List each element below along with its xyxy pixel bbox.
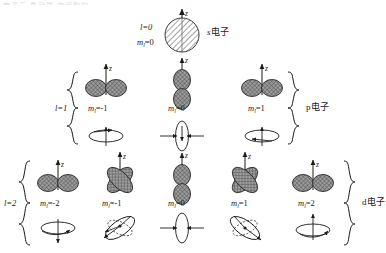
spin-diagram-d-m2 [296,214,330,240]
orbital-shape-d-m2 [293,160,334,192]
spin-diagram-d-m-2 [41,219,75,243]
orbital-shape-d-m-2 [38,160,79,192]
spin-diagram-d-m0 [160,213,204,243]
brace-right-d [344,161,355,245]
orbital-shape-s-m0 [165,9,199,52]
orbital-shape-p-m1 [242,64,283,97]
brace-left-p [67,72,78,144]
orbital-shape-d-m0 [174,153,191,205]
brace-left-d [19,161,30,245]
spin-diagram-d-m-1 [102,212,138,244]
orbital-shape-p-m-1 [86,64,127,97]
orbital-graphics [0,0,386,253]
spin-diagram-p-m-1 [89,127,123,146]
spin-diagram-d-m1 [227,212,263,244]
orbital-shape-d-m-1 [103,152,137,197]
orbital-shapes-figure: 电子云 角动量 空间取向 [0,0,386,253]
brace-right-p [288,72,299,144]
spin-diagram-p-m1 [245,127,279,146]
orbital-shape-d-m1 [228,152,262,197]
spin-diagram-p-m0 [160,121,204,151]
orbital-shape-p-m0 [174,58,191,110]
